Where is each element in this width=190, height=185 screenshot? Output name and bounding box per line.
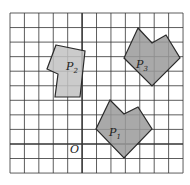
grid-lines (10, 13, 183, 173)
origin-label: O (70, 143, 79, 156)
polygon-p1 (96, 100, 152, 158)
grid-svg: P1P2P3 O (0, 0, 190, 185)
coordinate-grid-diagram: P1P2P3 O (0, 0, 190, 185)
polygon-p3 (124, 28, 180, 86)
polygons: P1P2P3 (47, 28, 180, 158)
